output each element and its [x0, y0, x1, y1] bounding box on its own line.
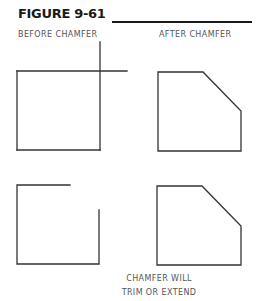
before-overlapping-lines — [17, 42, 127, 150]
after-chamfer-top — [158, 72, 241, 151]
caption-line-2: TRIM OR EXTEND — [0, 286, 266, 300]
before-gap-lines — [17, 185, 99, 264]
chamfer-drawings — [0, 0, 266, 301]
caption-line-1: CHAMFER WILL — [0, 272, 266, 286]
after-chamfer-bottom — [157, 186, 241, 265]
